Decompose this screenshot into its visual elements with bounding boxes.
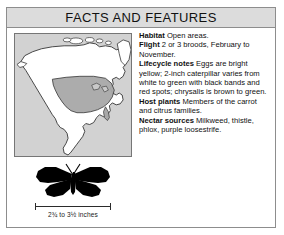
fact-lifecycle-notes: Lifecycle notes Eggs are bright yellow; …: [139, 59, 270, 97]
wingspan-caption: 2¾ to 3½ inches: [48, 211, 98, 218]
scale-end-cap-left: [35, 203, 36, 210]
north-america-map-icon: [15, 34, 131, 156]
fact-flight: Flight 2 or 3 broods, February to Novemb…: [139, 40, 270, 59]
fact-text: Open areas.: [167, 31, 209, 40]
fact-habitat: Habitat Open areas.: [139, 31, 270, 40]
range-map-panel: [14, 33, 132, 157]
facts-list: Habitat Open areas. Flight 2 or 3 broods…: [139, 31, 270, 134]
specimen-scale-figure: 2¾ to 3½ inches: [14, 159, 132, 225]
fact-label: Habitat: [139, 31, 165, 40]
fact-label: Nectar sources: [139, 116, 194, 125]
fact-nectar-sources: Nectar sources Milkweed, thistle, phlox,…: [139, 116, 270, 135]
card-body: Habitat Open areas. Flight 2 or 3 broods…: [7, 28, 275, 228]
fact-label: Lifecycle notes: [139, 59, 194, 68]
fact-label: Flight: [139, 40, 160, 49]
facts-and-features-card: FACTS AND FEATURES: [6, 7, 276, 228]
card-header: FACTS AND FEATURES: [7, 8, 275, 28]
scale-line: [35, 206, 111, 207]
scale-end-cap-right: [110, 203, 111, 210]
butterfly-silhouette-icon: [34, 161, 112, 201]
fact-label: Host plants: [139, 97, 180, 106]
wingspan-scale-bar: [35, 203, 111, 209]
fact-host-plants: Host plants Members of the carrot and ci…: [139, 97, 270, 116]
page-title: FACTS AND FEATURES: [65, 10, 216, 25]
